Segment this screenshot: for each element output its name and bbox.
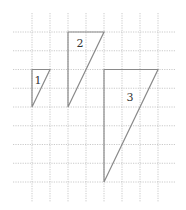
grid [13, 13, 176, 202]
triangle-3-label: 3 [127, 91, 134, 104]
triangle-2-label: 2 [77, 37, 84, 50]
similar-triangles-diagram: 1 2 3 [0, 0, 186, 210]
triangle-1-label: 1 [35, 74, 42, 87]
